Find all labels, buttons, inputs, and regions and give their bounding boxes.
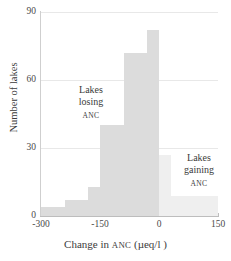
histogram-bar bbox=[206, 196, 218, 216]
annotation-gaining-line2: gaining bbox=[184, 164, 214, 175]
histogram-bar bbox=[88, 187, 100, 216]
histogram-bar bbox=[41, 207, 53, 216]
x-axis-title-main: Change in bbox=[64, 238, 112, 250]
x-tick-mark-150 bbox=[218, 213, 219, 217]
x-tick-label-150: 150 bbox=[211, 219, 225, 229]
annotation-losing-line1: Lakes bbox=[79, 84, 103, 95]
histogram-bar bbox=[124, 53, 136, 216]
annotation-gaining-line1: Lakes bbox=[187, 152, 211, 163]
histogram-bar bbox=[147, 30, 159, 216]
histogram-bar bbox=[100, 125, 112, 216]
annotation-gaining-line3: ANC bbox=[170, 178, 228, 190]
annotation-lakes-gaining: Lakes gaining ANC bbox=[170, 152, 228, 190]
annotation-losing-line3: ANC bbox=[62, 110, 120, 122]
histogram-bar bbox=[65, 200, 77, 216]
x-tick-label--150: -150 bbox=[91, 219, 108, 229]
histogram-bar bbox=[112, 125, 124, 216]
histogram-bar bbox=[135, 53, 147, 216]
x-axis-title-units: (µeq/l ) bbox=[131, 238, 167, 250]
x-axis-line bbox=[40, 216, 219, 217]
annotation-losing-line2: losing bbox=[79, 96, 103, 107]
histogram-bar bbox=[53, 207, 65, 216]
histogram-bar bbox=[183, 196, 195, 216]
x-axis-title: Change in ANC (µeq/l ) bbox=[0, 238, 231, 250]
histogram-figure: 0306090 -300-1500150 Number of lakes Cha… bbox=[0, 0, 231, 261]
x-tick-label--300: -300 bbox=[32, 219, 49, 229]
histogram-bar bbox=[76, 200, 88, 216]
annotation-lakes-losing: Lakes losing ANC bbox=[62, 84, 120, 122]
x-axis-title-anc: ANC bbox=[112, 240, 131, 250]
histogram-bar bbox=[171, 196, 183, 216]
histogram-bar bbox=[194, 196, 206, 216]
y-axis-title: Number of lakes bbox=[8, 33, 19, 163]
x-tick-label-0: 0 bbox=[157, 219, 162, 229]
y-tick-label-90: 90 bbox=[14, 6, 36, 16]
